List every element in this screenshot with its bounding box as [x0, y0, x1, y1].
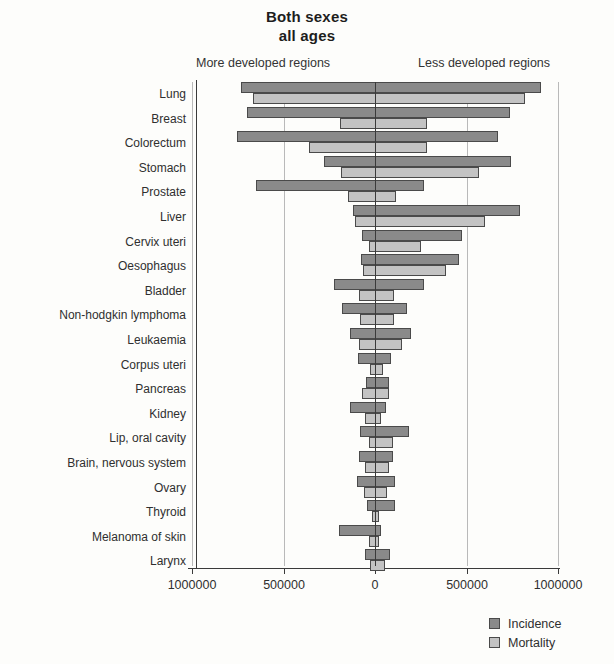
axis-tick [558, 568, 559, 574]
category-label-kidney: Kidney [149, 408, 186, 420]
bar-mortality-melanoma-of-skin [369, 536, 379, 547]
chart-title: Both sexes [0, 8, 614, 27]
bar-mortality-prostate [348, 191, 396, 202]
bar-incidence-bladder [334, 279, 424, 290]
chart-title-block: Both sexes all ages [0, 8, 614, 46]
legend-label-mortality: Mortality [508, 636, 555, 650]
bar-mortality-lip-oral-cavity [369, 437, 392, 448]
category-label-larynx: Larynx [150, 555, 186, 567]
bar-mortality-non-hodgkin-lymphoma [360, 314, 394, 325]
right-region-label: Less developed regions [418, 56, 550, 70]
chart-legend: IncidenceMortality [489, 614, 562, 652]
bar-mortality-breast [340, 118, 427, 129]
bar-incidence-leukaemia [350, 328, 410, 339]
category-label-ovary: Ovary [154, 482, 186, 494]
category-label-non-hodgkin-lymphoma: Non-hodgkin lymphoma [59, 309, 186, 321]
bar-mortality-kidney [365, 413, 381, 424]
gridline-1000000 [192, 82, 193, 566]
legend-item-mortality[interactable]: Mortality [489, 633, 562, 652]
bar-mortality-bladder [359, 290, 394, 301]
bar-mortality-larynx [370, 560, 385, 571]
category-label-prostate: Prostate [141, 186, 186, 198]
axis-tick-label: 1000000 [168, 578, 217, 592]
category-label-liver: Liver [160, 211, 186, 223]
bar-incidence-stomach [324, 156, 511, 167]
bar-incidence-breast [247, 107, 510, 118]
chart-subtitle: all ages [0, 27, 614, 46]
axis-tick [192, 568, 193, 574]
bar-incidence-colorectum [237, 131, 498, 142]
category-label-oesophagus: Oesophagus [118, 260, 186, 272]
category-label-bladder: Bladder [145, 285, 186, 297]
category-label-colorectum: Colorectum [125, 137, 186, 149]
category-label-stomach: Stomach [139, 162, 186, 174]
category-label-brain-nervous-system: Brain, nervous system [67, 457, 186, 469]
legend-label-incidence: Incidence [508, 617, 562, 631]
bar-incidence-liver [353, 205, 520, 216]
bar-mortality-corpus-uteri [370, 364, 383, 375]
axis-tick [467, 568, 468, 574]
legend-swatch-incidence [489, 618, 500, 629]
bar-incidence-cervix-uteri [362, 230, 462, 241]
cancer-incidence-mortality-chart: Both sexes all ages More developed regio… [0, 0, 614, 664]
bar-mortality-leukaemia [359, 339, 403, 350]
category-label-lip-oral-cavity: Lip, oral cavity [109, 432, 186, 444]
bar-incidence-thyroid [367, 500, 396, 511]
category-label-pancreas: Pancreas [135, 383, 186, 395]
bar-mortality-brain-nervous-system [365, 462, 389, 473]
legend-item-incidence[interactable]: Incidence [489, 614, 562, 633]
bar-incidence-pancreas [366, 377, 390, 388]
category-label-thyroid: Thyroid [146, 506, 186, 518]
bar-incidence-lung [241, 82, 541, 93]
legend-swatch-mortality [489, 637, 500, 648]
bar-mortality-cervix-uteri [369, 241, 421, 252]
bar-mortality-lung [253, 93, 525, 104]
axis-tick-label: 500000 [446, 578, 488, 592]
left-region-label: More developed regions [196, 56, 330, 70]
category-label-breast: Breast [151, 113, 186, 125]
category-label-lung: Lung [159, 88, 186, 100]
category-label-corpus-uteri: Corpus uteri [121, 359, 186, 371]
category-label-leukaemia: Leukaemia [127, 334, 186, 346]
bar-mortality-stomach [341, 167, 479, 178]
axis-tick-label: 500000 [263, 578, 305, 592]
bar-incidence-lip-oral-cavity [360, 426, 409, 437]
category-label-cervix-uteri: Cervix uteri [125, 236, 186, 248]
zero-axis-line [375, 82, 376, 566]
bar-incidence-kidney [350, 402, 386, 413]
bar-incidence-prostate [256, 180, 424, 191]
axis-tick-label: 1000000 [534, 578, 583, 592]
bar-incidence-larynx [365, 549, 390, 560]
bars-layer [196, 82, 614, 566]
category-label-melanoma-of-skin: Melanoma of skin [92, 531, 186, 543]
axis-tick [284, 568, 285, 574]
bar-mortality-colorectum [309, 142, 427, 153]
axis-tick-label: 0 [372, 578, 379, 592]
